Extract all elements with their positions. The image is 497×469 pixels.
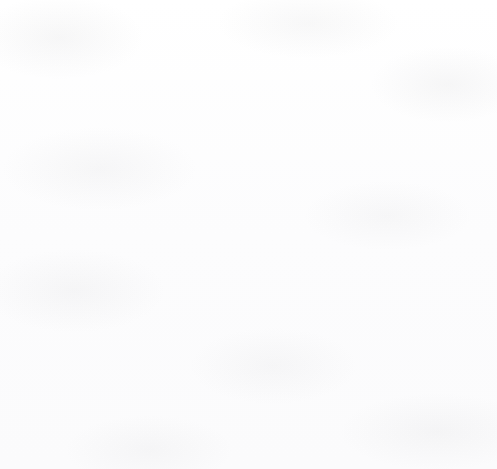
node-piezoresistive-type-driving-label: Piezoresistive type [284,211,359,222]
node-resonant-type[interactable]: Resonant type [272,441,370,460]
node-piezoresistive-type-sensitive[interactable]: Piezoresistive type [272,364,370,383]
node-electrostatic-type[interactable]: Electrostatic type [272,180,370,199]
node-measuring-label-line2: type [206,306,226,317]
node-electromagnetic-type[interactable]: Electromagnetic type [272,152,370,171]
node-axes-label-line1: Number of [186,31,231,42]
node-linear-type[interactable]: Linear type [269,97,370,116]
node-resonant-type-label: Resonant type [292,445,350,456]
node-electro-thermal-driving-line1: Electro-thermal [289,231,352,242]
connector-axes-to-double-axes [255,49,270,50]
node-sway-type-label: Sway type [298,122,341,133]
connector-measuring-to-optic [261,321,272,322]
node-number-of-sensitive-axes[interactable]: Number of sensitive axes [181,25,235,72]
node-electro-thermal-driving-line2: driving [305,242,336,253]
connector-sensitive-to-capacitance [261,347,272,348]
connector-sensitive-to-tunnel-current [261,424,272,425]
node-moving-label-line1: Moving [194,104,228,115]
node-piezoelectric-type[interactable]: Piezoelectric type [272,390,370,409]
node-sensitive-label-line2: mechanism [193,401,240,412]
node-electric-measurement[interactable]: Electric measurement [272,288,370,307]
scan-noise-overlay [0,0,497,469]
connector-measuring-spine [261,297,262,322]
connector-trunk-to-axes [140,49,181,50]
connector-driving-to-electro-thermal [261,242,272,243]
node-axes-label-line2: sensitive [190,43,227,54]
node-single-beam-type[interactable]: Single-beam type [392,411,480,430]
connector-axes-to-single-axis [255,22,270,23]
connector-driving-to-electromagnetic [261,161,272,162]
node-double-beam-type-label: Double-beam type [399,434,473,445]
connector-sensitive-to-piezoresistive [261,373,272,374]
node-sensitive-label-line1: Sensitive [197,389,236,400]
node-three-axes[interactable]: Three axes [269,68,370,87]
connector-axes-spine [255,22,256,78]
connector-moving-to-linear [255,106,270,107]
node-driving-label-line2: type [206,217,226,228]
node-electro-thermal-driving[interactable]: Electro-thermal driving [272,228,370,256]
connector-trunk-to-measuring [140,305,187,306]
connector-driving-to-electrostatic [261,189,272,190]
node-electromagnetic-type-label: Electromagnetic type [279,156,363,167]
node-double-beam-type[interactable]: Double-beam type [392,430,480,449]
node-optic-thermal-driving-line2: driving [305,270,336,281]
connector-driving-to-piezoresistive [261,216,272,217]
node-sway-type[interactable]: Sway type [269,118,370,137]
node-measuring-type[interactable]: Measuring type [187,288,246,323]
node-tunnel-current-type[interactable]: Tunnel current type [272,415,370,434]
connector-main-trunk [140,49,141,401]
node-tunnel-current-type-label: Tunnel current type [282,419,360,430]
connector-driving-stub [245,216,261,217]
node-driving-type[interactable]: Driving type [187,199,245,234]
connector-resonant-spine [384,420,385,451]
connector-measuring-stub [246,305,261,306]
connector-driving-to-optic-thermal [261,270,272,271]
node-capacitance-type[interactable]: Capaciatance type [272,338,370,357]
node-electric-measurement-label: Electric measurement [278,292,364,303]
node-optic-measurement[interactable]: Optic measurement [272,312,370,331]
node-piezoresistive-type-driving[interactable]: Piezoresistive type [272,207,370,226]
connector-axes-to-three-axes [255,78,270,79]
connector-sensitive-to-piezoelectric [261,399,272,400]
node-accelerometer-label: Accelerometer [30,211,89,222]
node-electrostatic-type-label: Electrostatic type [286,184,356,195]
node-axes-label-line3: axes [198,54,219,65]
connector-moving-to-sway [255,127,270,128]
node-optic-measurement-label: Optic measurement [282,316,359,327]
node-linear-type-label: Linear type [296,101,343,112]
connector-trunk-to-moving [140,116,184,117]
connector-axes-stub [235,49,256,50]
connector-trunk-to-sensitive [140,400,187,401]
diagram-canvas: Accelerometer Number of sensitive axes M… [0,0,497,469]
node-three-axes-label: Three axes [297,72,342,83]
node-double-axes-label: Double axes [294,44,345,55]
connector-moving-spine [255,106,256,127]
node-piezoresistive-type-sensitive-label: Piezoresistive type [284,368,359,379]
node-single-axis[interactable]: Single axis [269,13,370,32]
node-driving-label-line1: Driving [199,205,232,216]
node-capacitance-type-label: Capaciatance type [285,342,358,353]
node-piezoelectric-type-label: Piezoelectric type [285,394,356,405]
node-accelerometer[interactable]: Accelerometer [17,203,103,230]
node-moving-type[interactable]: Moving type [184,98,238,133]
node-optic-thermal-driving[interactable]: Optic-thermal driving [272,256,370,284]
node-moving-label-line2: type [201,116,221,127]
connector-resonant-stub [370,450,385,451]
connector-root-to-trunk [103,216,141,217]
node-optic-thermal-driving-line1: Optic-thermal [293,259,350,270]
connector-sensitive-to-resonant [261,450,272,451]
node-single-beam-type-label: Single-beam type [401,415,471,426]
node-double-axes[interactable]: Double axes [269,40,370,59]
connector-sensitive-stub [245,400,261,401]
connector-moving-stub [238,116,256,117]
node-sensitive-mechanism[interactable]: Sensitive mechanism [187,383,245,418]
node-measuring-label-line1: Measuring [194,294,238,305]
node-single-axis-label: Single axis [297,17,343,28]
connector-trunk-to-driving [140,216,187,217]
connector-measuring-to-electric [261,297,272,298]
